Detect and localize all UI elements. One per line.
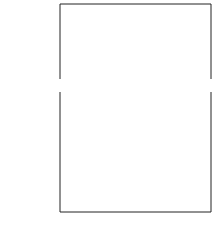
top-panel	[60, 4, 211, 79]
bottom-panel	[0, 0, 211, 212]
chart-figure	[0, 0, 221, 252]
